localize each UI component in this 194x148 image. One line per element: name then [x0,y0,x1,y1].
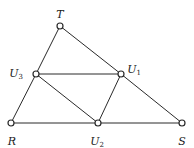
label-u3: U3 [9,67,23,81]
node-u1 [118,71,124,77]
edge-u3-u2 [36,74,98,123]
label-t: T [56,8,65,21]
edge-t-u3 [36,26,60,74]
edge-u1-s [121,74,182,123]
node-s [179,120,185,126]
edge-t-u1 [60,26,121,74]
label-u1: U1 [127,63,141,77]
edge-u1-u2 [98,74,121,123]
label-s: S [178,135,186,148]
node-u3 [33,71,39,77]
node-u2 [95,120,101,126]
label-r: R [7,135,16,148]
edge-u3-r [11,74,36,123]
triangle-diagram: TU3U1RU2S [0,0,194,148]
node-r [8,120,14,126]
node-t [57,23,63,29]
label-u2: U2 [90,135,104,148]
